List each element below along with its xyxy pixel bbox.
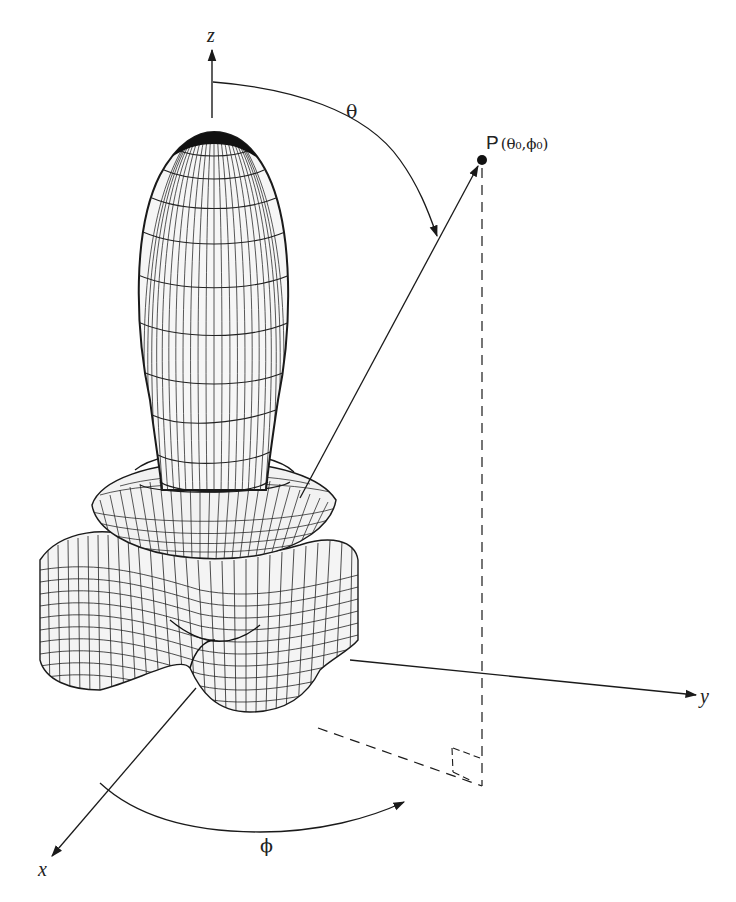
phi-label: ϕ xyxy=(260,834,273,856)
main-lobe xyxy=(138,132,290,495)
point-p-letter: P xyxy=(486,132,499,153)
radial-vector-to-point xyxy=(300,166,478,498)
y-axis-label: y xyxy=(698,685,709,708)
phi-angle-arc: ϕ xyxy=(100,783,404,856)
x-axis-label: x xyxy=(37,858,47,880)
point-p-label: P(θ₀,ϕ₀) xyxy=(486,132,548,153)
y-axis: y xyxy=(350,660,709,708)
z-axis-label: z xyxy=(206,24,215,46)
x-axis: x xyxy=(37,688,196,880)
theta-label: θ xyxy=(346,100,357,122)
point-p-coordinates: (θ₀,ϕ₀) xyxy=(501,135,549,153)
right-angle-marker xyxy=(452,748,480,780)
horizontal-projection-line xyxy=(318,728,482,786)
point-p: P(θ₀,ϕ₀) xyxy=(477,132,548,165)
z-axis: z xyxy=(206,24,215,118)
radiation-pattern-diagram: z θ P(θ₀,ϕ₀) y x ϕ xyxy=(0,0,736,902)
